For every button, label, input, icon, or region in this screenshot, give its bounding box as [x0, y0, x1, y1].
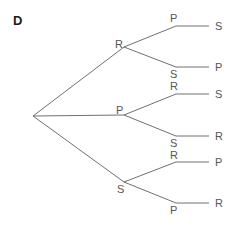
leaf-label-SPR: R [215, 197, 223, 209]
edge-root-P [33, 115, 124, 116]
node-label-P: P [116, 104, 123, 116]
edge-root-R [33, 47, 124, 116]
edge-root-S [33, 116, 124, 182]
edge-P-R [124, 94, 176, 115]
leaf-label-PSR: R [215, 130, 223, 142]
node-label-S: S [117, 183, 124, 195]
leaf-label-RPS: S [215, 20, 222, 32]
leaf-label-SRP: P [215, 156, 222, 168]
node-label-RS: S [170, 68, 177, 80]
leaf-label-PRS: S [215, 88, 222, 100]
edge-R-P [124, 26, 176, 47]
node-label-PR: R [170, 80, 178, 92]
tree-diagram: R P S P S R S R P S P S R P R [0, 0, 233, 232]
leaf-label-RSP: P [215, 61, 222, 73]
edge-R-S [124, 47, 176, 67]
node-label-PS: S [170, 137, 177, 149]
tree-diagram-figure: D R P S P S R S R P S P S R [0, 0, 233, 232]
node-label-R: R [115, 38, 123, 50]
node-label-SR: R [170, 149, 178, 161]
node-label-RP: P [170, 12, 177, 24]
edge-S-P [124, 182, 176, 203]
edge-P-S [124, 115, 176, 136]
node-label-SP: P [170, 204, 177, 216]
edge-S-R [124, 162, 176, 182]
